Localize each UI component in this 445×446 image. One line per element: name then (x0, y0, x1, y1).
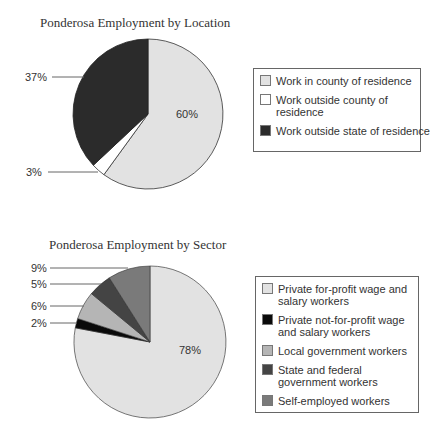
label-6: 6% (31, 300, 47, 312)
label-2: 2% (31, 317, 47, 329)
sector-chart: Ponderosa Employment by Sector 9% 5% 6% … (0, 220, 445, 446)
legend-swatch (260, 125, 271, 136)
legend-item-private-for-profit: Private for-profit wage and salary worke… (262, 283, 412, 307)
label-3: 3% (26, 166, 42, 178)
legend-swatch (260, 75, 271, 86)
legend-swatch (262, 364, 273, 375)
label-60: 60% (176, 108, 198, 120)
legend-item-local-government: Local government workers (262, 345, 412, 357)
label-37: 37% (25, 71, 47, 83)
label-78: 78% (179, 344, 201, 356)
legend-label: Private for-profit wage and salary worke… (278, 283, 412, 307)
legend-item-outside-state: Work outside state of residence (260, 125, 414, 137)
legend-label: State and federal government workers (278, 364, 412, 388)
legend-swatch (260, 94, 271, 105)
legend-swatch (262, 283, 273, 294)
legend-swatch (262, 345, 273, 356)
legend-label: Work outside county of residence (276, 94, 414, 118)
legend-item-in-county: Work in county of residence (260, 75, 414, 87)
legend-label: Self-employed workers (278, 395, 390, 407)
location-chart: Ponderosa Employment by Location 37% 3% … (0, 0, 445, 220)
legend-item-outside-county: Work outside county of residence (260, 94, 414, 118)
legend-label: Work in county of residence (276, 75, 412, 87)
location-legend: Work in county of residence Work outside… (253, 68, 421, 152)
legend-label: Local government workers (278, 345, 407, 357)
legend-label: Private not-for-profit wage and salary w… (278, 314, 412, 338)
legend-item-private-not-for-profit: Private not-for-profit wage and salary w… (262, 314, 412, 338)
legend-item-self-employed: Self-employed workers (262, 395, 412, 407)
sector-legend: Private for-profit wage and salary worke… (255, 276, 419, 413)
label-5: 5% (31, 278, 47, 290)
legend-label: Work outside state of residence (276, 125, 430, 137)
legend-item-state-federal-government: State and federal government workers (262, 364, 412, 388)
label-9: 9% (31, 262, 47, 274)
legend-swatch (262, 395, 273, 406)
legend-swatch (262, 314, 273, 325)
